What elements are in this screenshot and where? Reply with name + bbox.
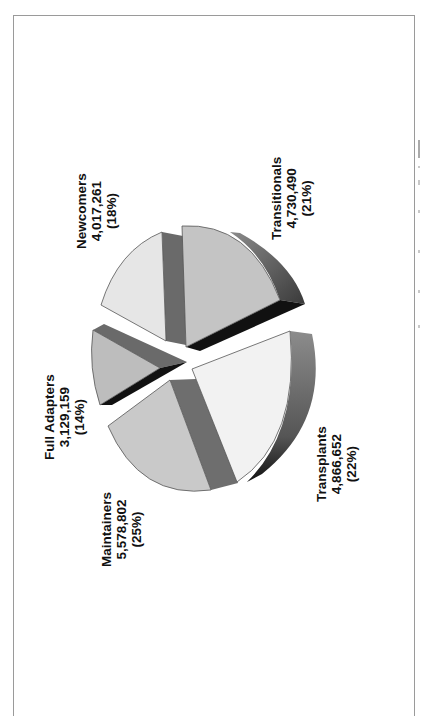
label-transplants-value: 4,866,652 [329,426,344,502]
label-maintainers-pct: (25%) [129,492,144,567]
label-transitionals-value: 4,730,490 [284,157,299,240]
label-newcomers: Newcomers 4,017,261 (18%) [74,173,119,249]
label-full-adapters-value: 3,129,159 [57,374,72,460]
label-transplants-name: Transplants [314,426,329,502]
label-newcomers-value: 4,017,261 [89,173,104,249]
label-transitionals: Transitionals 4,730,490 (21%) [269,157,314,240]
label-full-adapters-name: Full Adapters [42,374,57,460]
label-transitionals-name: Transitionals [269,157,284,240]
label-newcomers-name: Newcomers [74,173,89,249]
faint-caption [416,140,422,340]
label-transplants: Transplants 4,866,652 (22%) [314,426,359,502]
label-transplants-pct: (22%) [344,426,359,502]
label-full-adapters-pct: (14%) [72,374,87,460]
label-maintainers-name: Maintainers [99,492,114,567]
label-maintainers-value: 5,578,802 [114,492,129,567]
label-full-adapters: Full Adapters 3,129,159 (14%) [42,374,87,460]
label-newcomers-pct: (18%) [104,173,119,249]
label-transitionals-pct: (21%) [299,157,314,240]
label-maintainers: Maintainers 5,578,802 (25%) [99,492,144,567]
